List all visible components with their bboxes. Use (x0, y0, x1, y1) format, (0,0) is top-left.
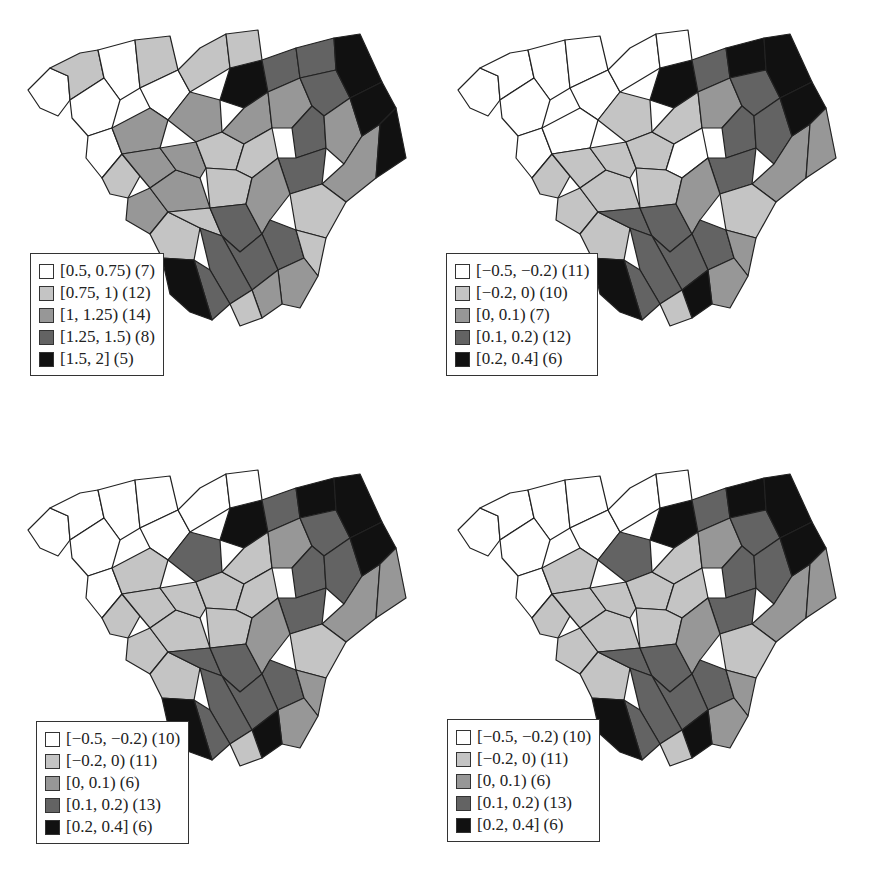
county-region (636, 168, 682, 208)
legend-label: [0.2, 0.4] (6) (476, 349, 562, 369)
map-panel-bottom-right: [−0.5, −0.2) (10)[−0.2, 0) (11)[0, 0.1) … (430, 448, 866, 896)
legend-item: [−0.5, −0.2) (11) (455, 260, 589, 282)
county-region (28, 508, 70, 556)
legend-swatch (39, 308, 54, 323)
legend-swatch (455, 352, 470, 367)
legend-swatch (456, 818, 471, 833)
legend-label: [0, 0.1) (6) (477, 771, 551, 791)
legend-swatch (455, 264, 470, 279)
legend-label: [0.5, 0.75) (7) (60, 261, 155, 281)
legend-item: [−0.2, 0) (11) (456, 748, 591, 770)
legend-item: [0.2, 0.4] (6) (45, 816, 180, 838)
legend-label: [−0.5, −0.2) (10) (477, 727, 591, 747)
legend-swatch (45, 820, 60, 835)
legend-label: [−0.2, 0) (10) (476, 283, 568, 303)
legend-label: [0.1, 0.2) (12) (476, 327, 571, 347)
county-region (28, 68, 70, 116)
legend-item: [0.1, 0.2) (13) (456, 792, 591, 814)
legend-item: [1.25, 1.5) (8) (39, 326, 155, 348)
county-region (206, 608, 252, 648)
legend-item: [1.5, 2] (5) (39, 348, 155, 370)
legend-label: [−0.2, 0) (11) (477, 749, 568, 769)
map-panel-top-left: [0.5, 0.75) (7)[0.75, 1) (12)[1, 1.25) (… (0, 0, 436, 448)
map-panel-top-right: [−0.5, −0.2) (11)[−0.2, 0) (10)[0, 0.1) … (430, 0, 866, 448)
legend-swatch (45, 798, 60, 813)
county-region (206, 168, 252, 208)
legend-label: [−0.5, −0.2) (11) (476, 261, 589, 281)
county-region (458, 508, 500, 556)
legend-swatch (456, 752, 471, 767)
legend-swatch (39, 352, 54, 367)
legend-label: [0.75, 1) (12) (60, 283, 151, 303)
legend-label: [0, 0.1) (6) (66, 773, 140, 793)
legend-swatch (455, 330, 470, 345)
legend-item: [−0.2, 0) (10) (455, 282, 589, 304)
legend-label: [0.1, 0.2) (13) (66, 795, 161, 815)
map-legend: [−0.5, −0.2) (10)[−0.2, 0) (11)[0, 0.1) … (447, 719, 600, 842)
legend-swatch (455, 308, 470, 323)
legend-label: [0.2, 0.4] (6) (477, 815, 563, 835)
legend-item: [−0.2, 0) (11) (45, 750, 180, 772)
legend-swatch (45, 732, 60, 747)
county-region (112, 548, 168, 594)
county-region (542, 548, 598, 594)
legend-item: [0, 0.1) (7) (455, 304, 589, 326)
county-region (542, 108, 598, 154)
county-region (112, 108, 168, 154)
legend-item: [0.5, 0.75) (7) (39, 260, 155, 282)
county-region (608, 34, 660, 92)
legend-label: [0.2, 0.4] (6) (66, 817, 152, 837)
legend-item: [0.1, 0.2) (12) (455, 326, 589, 348)
county-region (178, 474, 230, 532)
map-panel-bottom-left: [−0.5, −0.2) (10)[−0.2, 0) (11)[0, 0.1) … (0, 448, 436, 896)
legend-item: [0, 0.1) (6) (45, 772, 180, 794)
county-region (608, 474, 660, 532)
county-region (458, 68, 500, 116)
legend-label: [0.1, 0.2) (13) (477, 793, 572, 813)
legend-label: [1, 1.25) (14) (60, 305, 151, 325)
legend-swatch (39, 264, 54, 279)
legend-label: [0, 0.1) (7) (476, 305, 550, 325)
map-legend: [−0.5, −0.2) (10)[−0.2, 0) (11)[0, 0.1) … (36, 721, 189, 844)
legend-item: [0.75, 1) (12) (39, 282, 155, 304)
map-legend: [0.5, 0.75) (7)[0.75, 1) (12)[1, 1.25) (… (30, 253, 164, 376)
legend-swatch (456, 774, 471, 789)
legend-swatch (45, 776, 60, 791)
legend-label: [−0.5, −0.2) (10) (66, 729, 180, 749)
legend-swatch (45, 754, 60, 769)
legend-swatch (39, 286, 54, 301)
legend-label: [1.5, 2] (5) (60, 349, 134, 369)
legend-swatch (455, 286, 470, 301)
legend-item: [0, 0.1) (6) (456, 770, 591, 792)
legend-item: [−0.5, −0.2) (10) (45, 728, 180, 750)
legend-item: [0.2, 0.4] (6) (455, 348, 589, 370)
county-region (178, 34, 230, 92)
legend-swatch (39, 330, 54, 345)
legend-item: [0.1, 0.2) (13) (45, 794, 180, 816)
legend-label: [1.25, 1.5) (8) (60, 327, 155, 347)
legend-item: [−0.5, −0.2) (10) (456, 726, 591, 748)
legend-swatch (456, 796, 471, 811)
map-legend: [−0.5, −0.2) (11)[−0.2, 0) (10)[0, 0.1) … (446, 253, 598, 376)
legend-label: [−0.2, 0) (11) (66, 751, 157, 771)
county-region (636, 608, 682, 648)
legend-item: [1, 1.25) (14) (39, 304, 155, 326)
legend-swatch (456, 730, 471, 745)
legend-item: [0.2, 0.4] (6) (456, 814, 591, 836)
